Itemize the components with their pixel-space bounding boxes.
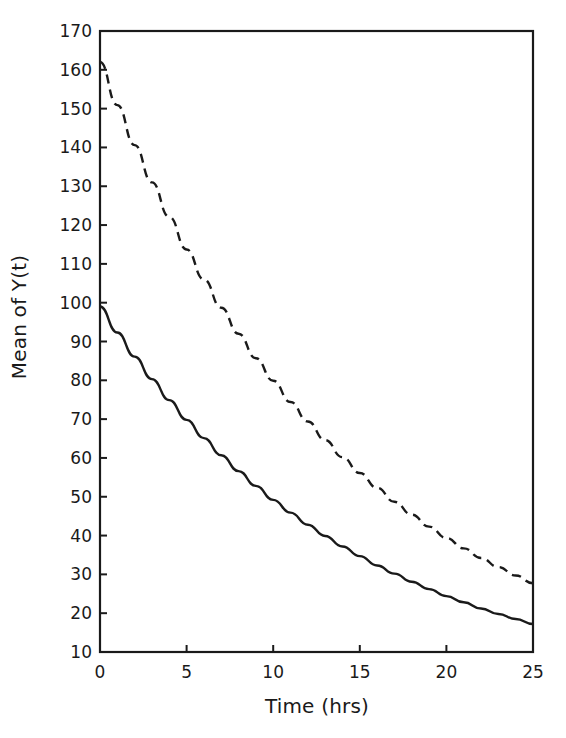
series-solid-curve bbox=[100, 307, 533, 624]
series-dashed-curve bbox=[100, 62, 533, 583]
chart-figure: Mean of Y(t) Time (hrs) 1020304050607080… bbox=[0, 0, 566, 738]
data-series-group bbox=[100, 62, 533, 624]
plot-area bbox=[0, 0, 566, 738]
plot-frame bbox=[100, 31, 533, 652]
